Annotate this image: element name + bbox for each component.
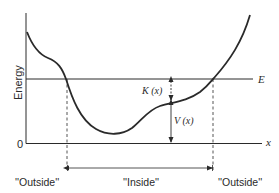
potential-energy-diagram: Energy 0 x E K (x) V (x) ''Outside'' ''I… [0, 0, 279, 193]
region-label-outside-right: ''Outside'' [218, 176, 262, 188]
y-axis-label: Energy [12, 65, 24, 100]
energy-line-label: E [257, 73, 265, 85]
kinetic-energy-label: K (x) [141, 85, 163, 97]
origin-label: 0 [17, 138, 23, 150]
region-label-outside-left: ''Outside'' [15, 176, 59, 188]
potential-curve [27, 15, 250, 134]
potential-energy-label: V (x) [174, 115, 194, 127]
x-axis-label: x [265, 136, 271, 148]
region-label-inside: ''Inside'' [123, 176, 159, 188]
